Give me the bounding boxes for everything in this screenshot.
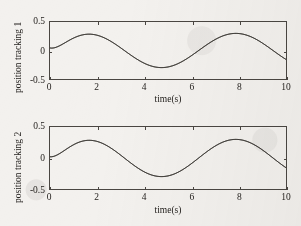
y-tick-1-mid bbox=[49, 52, 52, 53]
x-tick-2-top-2 bbox=[98, 127, 99, 130]
x-tick-1-8 bbox=[240, 77, 241, 80]
x-tick-label-1-4: 4 bbox=[142, 82, 147, 92]
x-axis-title-1: time(s) bbox=[155, 94, 182, 104]
y-tick-label-2-bot: -0.5 bbox=[22, 185, 45, 195]
x-tick-1-4 bbox=[145, 77, 146, 80]
plot-curves-1 bbox=[50, 22, 286, 79]
x-axis-title-2: time(s) bbox=[155, 205, 182, 215]
x-tick-1-top-4 bbox=[145, 22, 146, 25]
plot-area-2 bbox=[49, 126, 287, 190]
x-tick-label-2-10: 10 bbox=[281, 192, 291, 202]
x-tick-label-1-0: 0 bbox=[47, 82, 52, 92]
x-tick-1-2 bbox=[98, 77, 99, 80]
x-tick-2-10 bbox=[287, 187, 288, 190]
x-tick-2-0 bbox=[50, 187, 51, 190]
x-tick-label-1-2: 2 bbox=[94, 82, 99, 92]
y-tick-label-1-bot: -0.5 bbox=[22, 75, 45, 85]
x-tick-1-top-8 bbox=[240, 22, 241, 25]
y-tick-label-1-top: 0.5 bbox=[25, 16, 45, 26]
curve-actual-2 bbox=[50, 139, 286, 176]
x-tick-1-top-2 bbox=[98, 22, 99, 25]
curve-actual-1 bbox=[50, 33, 286, 67]
x-tick-label-1-6: 6 bbox=[189, 82, 194, 92]
y-tick-label-2-top: 0.5 bbox=[25, 121, 45, 131]
x-tick-1-0 bbox=[50, 77, 51, 80]
y-tick-label-1-mid: 0 bbox=[25, 46, 45, 56]
curve-reference-2 bbox=[50, 139, 286, 176]
x-tick-1-6 bbox=[193, 77, 194, 80]
x-tick-2-top-8 bbox=[240, 127, 241, 130]
x-tick-label-1-10: 10 bbox=[281, 82, 291, 92]
x-tick-2-6 bbox=[193, 187, 194, 190]
plot-curves-2 bbox=[50, 127, 286, 189]
x-tick-2-2 bbox=[98, 187, 99, 190]
plot-area-1 bbox=[49, 21, 287, 80]
y-tick-2-mid bbox=[49, 159, 52, 160]
x-tick-2-8 bbox=[240, 187, 241, 190]
x-tick-label-2-2: 2 bbox=[94, 192, 99, 202]
x-tick-2-top-6 bbox=[193, 127, 194, 130]
x-tick-label-1-8: 8 bbox=[237, 82, 242, 92]
x-tick-1-10 bbox=[287, 77, 288, 80]
x-tick-1-top-6 bbox=[193, 22, 194, 25]
y-tick-2-mid-right bbox=[284, 159, 287, 160]
y-tick-label-2-mid: 0 bbox=[25, 153, 45, 163]
chart-panel-2: position tracking 2 0.5 0 -0.5 0 2 4 6 bbox=[0, 113, 301, 226]
y-tick-1-mid-right bbox=[284, 52, 287, 53]
figure-container: position tracking 1 0.5 0 -0.5 0 2 4 6 bbox=[0, 0, 301, 226]
x-tick-2-4 bbox=[145, 187, 146, 190]
x-tick-label-2-0: 0 bbox=[47, 192, 52, 202]
curve-reference-1 bbox=[50, 33, 286, 67]
x-tick-label-2-6: 6 bbox=[189, 192, 194, 202]
x-tick-label-2-4: 4 bbox=[142, 192, 147, 202]
x-tick-2-top-4 bbox=[145, 127, 146, 130]
x-tick-label-2-8: 8 bbox=[237, 192, 242, 202]
chart-panel-1: position tracking 1 0.5 0 -0.5 0 2 4 6 bbox=[0, 8, 301, 113]
